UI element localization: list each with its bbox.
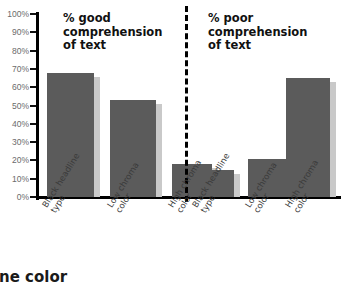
y-axis-tick-label: 70% — [0, 64, 29, 74]
y-axis-tick-label: 20% — [0, 155, 29, 165]
panel-heading-poor: % poor comprehension of text — [208, 12, 307, 53]
y-axis-tick-label: 40% — [0, 119, 29, 129]
y-axis-tick-label: 0% — [0, 192, 29, 202]
y-axis-tick-label: 50% — [0, 101, 29, 111]
y-axis-tick-label: 60% — [0, 82, 29, 92]
y-axis-tick-label: 80% — [0, 46, 29, 56]
y-axis-tick-label: 10% — [0, 174, 29, 184]
y-axis-tick-label: 90% — [0, 27, 29, 37]
bottom-caption-clipped: dline color — [0, 268, 67, 286]
chart-figure: 100%90%80%70%60%50%40%30%20%10%0% % good… — [0, 0, 341, 286]
y-axis-tick-label: 100% — [0, 9, 29, 19]
y-axis-tick-label: 30% — [0, 137, 29, 147]
panel-heading-good: % good comprehension of text — [63, 12, 162, 53]
